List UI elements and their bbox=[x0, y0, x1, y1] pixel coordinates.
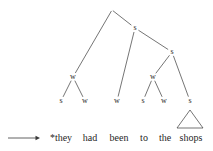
arrow-head bbox=[36, 136, 41, 141]
tree-diagram-svg bbox=[0, 0, 213, 151]
tree-node-leaf1: s bbox=[54, 97, 68, 105]
tree-node-leaf6: s bbox=[183, 97, 197, 105]
sentence-word: the bbox=[159, 132, 171, 143]
sentence-word: to bbox=[140, 132, 148, 143]
tree-edge bbox=[156, 56, 169, 73]
metrical-tree-figure: sswwswwsws *theyhadbeentotheshops bbox=[0, 0, 213, 151]
sentence-word: been bbox=[110, 132, 129, 143]
sentence-word: *they bbox=[50, 132, 72, 143]
tree-edge bbox=[174, 56, 189, 96]
tree-node-leaf3: w bbox=[110, 97, 124, 105]
derivation-arrow bbox=[8, 136, 40, 141]
phrase-triangle bbox=[177, 110, 203, 128]
tree-node-leaf2: w bbox=[78, 97, 92, 105]
tree-node-w2: w bbox=[146, 73, 160, 81]
tree-node-s1: s bbox=[128, 24, 142, 32]
sentence-word: shops bbox=[180, 132, 203, 143]
tree-edge bbox=[76, 11, 112, 72]
tree-edge bbox=[145, 81, 151, 96]
tree-node-s2: s bbox=[165, 48, 179, 56]
tree-edge bbox=[75, 81, 83, 97]
tree-edge bbox=[113, 11, 131, 25]
tree-node-w1: w bbox=[66, 73, 80, 81]
phrase-triangle-shape bbox=[177, 110, 203, 128]
tree-edge bbox=[155, 81, 162, 96]
tree-edge bbox=[63, 81, 71, 97]
tree-node-leaf4: s bbox=[136, 97, 150, 105]
tree-edge bbox=[118, 32, 134, 96]
sentence-word: had bbox=[83, 132, 97, 143]
tree-node-leaf5: w bbox=[157, 97, 171, 105]
tree-edge bbox=[139, 30, 168, 49]
